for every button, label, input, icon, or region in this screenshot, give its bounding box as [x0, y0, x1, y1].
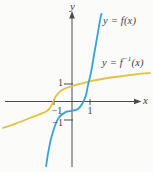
tick-label: −1 — [48, 106, 66, 116]
f-inverse-label-exponent: −1 — [123, 55, 132, 63]
f-curve — [46, 14, 101, 166]
x-axis-label: x — [143, 95, 148, 106]
f-inverse-label-suffix: (x) — [132, 57, 144, 68]
f-inverse-curve-label: y = f−1(x) — [102, 56, 144, 68]
tick-label: 1 — [45, 78, 63, 88]
f-curve-label: y = f(x) — [103, 16, 136, 27]
inverse-function-figure: y x y = f(x) y = f−1(x) −11−11 — [0, 0, 153, 172]
y-axis-label: y — [66, 1, 79, 12]
tick-label: −1 — [45, 118, 63, 128]
f-inverse-curve — [3, 73, 150, 128]
f-inverse-label-prefix: y = f — [102, 57, 123, 68]
x-axis-arrowhead — [134, 99, 142, 105]
y-axis-arrowhead — [69, 11, 75, 19]
tick-label: 1 — [81, 106, 99, 116]
